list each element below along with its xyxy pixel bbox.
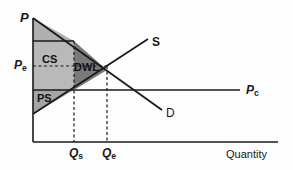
price-ceiling-curve-label: Pc bbox=[246, 84, 259, 96]
supply-demand-welfare-diagram: P Quantity Pe Pc Qs Qe S D CS DWL PS bbox=[0, 0, 293, 170]
deadweight-loss-label: DWL bbox=[74, 62, 99, 73]
price-equilibrium-tick-label: Pe bbox=[14, 59, 27, 71]
consumer-surplus-label: CS bbox=[42, 54, 57, 65]
pc-base: P bbox=[246, 83, 254, 97]
x-axis-label: Quantity bbox=[226, 149, 267, 160]
quantity-equilibrium-tick-label: Qe bbox=[102, 147, 116, 159]
demand-curve-label: D bbox=[166, 107, 175, 119]
pe-subscript: e bbox=[22, 63, 27, 73]
quantity-supplied-tick-label: Qs bbox=[69, 147, 83, 159]
pc-subscript: c bbox=[254, 88, 259, 98]
producer-surplus-label: PS bbox=[37, 93, 52, 104]
pe-base: P bbox=[14, 58, 22, 72]
supply-curve-label: S bbox=[152, 36, 160, 48]
qs-base: Q bbox=[69, 146, 78, 160]
qe-base: Q bbox=[102, 146, 111, 160]
qs-subscript: s bbox=[78, 151, 83, 161]
qe-subscript: e bbox=[111, 151, 116, 161]
y-axis-label: P bbox=[20, 11, 29, 24]
